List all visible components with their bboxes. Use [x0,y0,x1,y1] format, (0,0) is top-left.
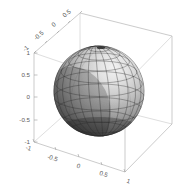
z-tick-label: 0 [27,93,31,100]
plot-canvas: 1 0.5 0 -0.5 -1 -1 -0.5 0 0.5 1 -1 -0.5 … [0,0,183,194]
y-tick-label: -0.5 [32,29,45,42]
x-tick-label: 0 [76,162,82,170]
x-tick-label: -0.5 [47,153,60,163]
z-axis-tick-labels: 1 0.5 0 -0.5 -1 [19,49,30,145]
sphere-north-pole [97,46,105,49]
x-tick-label: -1 [25,143,33,151]
z-tick-label: -0.5 [19,116,30,123]
x-axis-tick-labels: -1 -0.5 0 0.5 1 [25,143,132,184]
y-tick-label: 0.5 [61,7,73,18]
y-tick-label: 0 [50,20,58,28]
y-axis-tick-labels: -1 -0.5 0 0.5 [21,7,72,52]
sphere-3d-plot: 1 0.5 0 -0.5 -1 -1 -0.5 0 0.5 1 -1 -0.5 … [0,0,183,194]
x-tick-label: 1 [126,177,132,185]
z-tick-label: 0.5 [21,71,30,78]
x-tick-label: 0.5 [99,169,110,178]
